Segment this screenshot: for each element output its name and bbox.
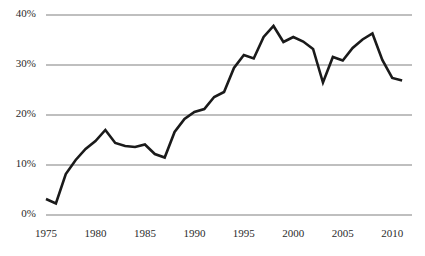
y-axis-tick-label: 10% — [2, 157, 36, 169]
x-axis-tick-label: 1990 — [174, 227, 214, 239]
chart-plot-area — [0, 0, 425, 256]
x-axis-tick-label: 2005 — [323, 227, 363, 239]
y-axis-tick-label: 40% — [2, 7, 36, 19]
x-axis-tick-label: 1980 — [75, 227, 115, 239]
x-axis-tick-label: 1975 — [26, 227, 66, 239]
y-axis-tick-label: 30% — [2, 57, 36, 69]
x-axis-tick-label: 2010 — [372, 227, 412, 239]
y-axis-tick-label: 20% — [2, 107, 36, 119]
x-axis-tick-label: 2000 — [273, 227, 313, 239]
x-axis-tick-label: 1995 — [224, 227, 264, 239]
x-axis-tick-label: 1985 — [125, 227, 165, 239]
y-axis-tick-label: 0% — [2, 207, 36, 219]
line-chart: 0%10%20%30%40% 1975198019851990199520002… — [0, 0, 425, 256]
